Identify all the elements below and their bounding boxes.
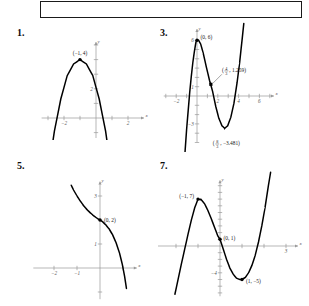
problem-5-svg: xy−2−113(0, 2) <box>22 155 154 303</box>
problem-7-point-marker <box>196 197 199 200</box>
problem-5-ytick: 3 <box>94 193 97 199</box>
svg-text:(: ( <box>213 140 215 147</box>
problem-5-ylabel: y <box>101 178 105 183</box>
problem-7-ytick: −4 <box>211 270 218 276</box>
problem-5-xlabel: x <box>137 263 141 268</box>
svg-text:(: ( <box>222 67 224 74</box>
problem-3-annotation-label: (83, −3.481) <box>213 139 240 149</box>
problem-3-axes <box>164 29 274 142</box>
problem-3-svg: xy−2246−316(0, 6)(43, 1.259)(83, −3.481) <box>156 22 308 152</box>
problem-7-point-marker <box>240 278 243 281</box>
problem-3-annotation-label: (43, 1.259) <box>222 66 246 76</box>
problem-3-point-marker <box>195 39 198 42</box>
problem-5-axes <box>33 182 137 300</box>
problem-3-xtick: 4 <box>237 98 240 104</box>
problem-5-annotation-label: (0, 2) <box>104 217 116 224</box>
problem-3-ytick: 1 <box>191 84 194 90</box>
problem-3-xtick: 6 <box>258 98 261 104</box>
problem-3-graph: xy−2246−316(0, 6)(43, 1.259)(83, −3.481) <box>156 22 308 152</box>
problem-3-curve <box>185 23 244 151</box>
problem-1-graph: xy−222(−1, 4) <box>22 22 154 140</box>
problem-7-xtick: 3 <box>285 248 288 254</box>
problem-3-xtick: −2 <box>173 98 180 104</box>
problem-1-xtick: 2 <box>127 120 130 126</box>
problem-7-ylabel: y <box>221 177 225 182</box>
svg-text:, −3.481): , −3.481) <box>220 140 240 147</box>
problem-1-xtick: −2 <box>61 120 68 126</box>
problem-1-xlabel: x <box>145 113 149 118</box>
problem-7-svg: xy3−4(−1, 7)(0, 1)(1, −5) <box>156 155 308 303</box>
problem-1-svg: xy−222(−1, 4) <box>22 22 154 140</box>
svg-text:3: 3 <box>216 144 218 149</box>
problem-3-xtick: 2 <box>217 98 220 104</box>
problem-1-ytick: 2 <box>90 86 93 92</box>
problem-7-graph: xy3−4(−1, 7)(0, 1)(1, −5) <box>156 155 308 303</box>
problem-5-ytick: 1 <box>94 241 97 247</box>
problem-3-annotation-label: (0, 6) <box>201 34 213 41</box>
problem-7-annotation-label: (0, 1) <box>224 235 236 242</box>
problem-7-annotation-label: (−1, 7) <box>179 193 194 200</box>
problem-5-point-marker <box>98 218 101 221</box>
problem-7: 7. xy3−4(−1, 7)(0, 1)(1, −5) <box>152 155 309 305</box>
problem-1-annotation-label: (−1, 4) <box>73 50 88 57</box>
problem-1-ylabel: y <box>97 39 101 44</box>
problem-3-ytick: −3 <box>188 121 195 127</box>
problem-5-xtick: −2 <box>51 270 58 276</box>
problem-3-point-marker <box>209 83 212 86</box>
problem-3: 3. xy−2246−316(0, 6)(43, 1.259)(83, −3.4… <box>152 22 309 152</box>
problem-3-xlabel: x <box>274 91 278 96</box>
top-answer-box <box>40 1 302 18</box>
problem-7-curve <box>175 172 271 294</box>
problem-7-xlabel: x <box>299 241 303 246</box>
problem-7-annotation-label: (1, −5) <box>246 278 261 285</box>
problem-1-point-marker <box>78 58 81 61</box>
worksheet-page: 1. xy−222(−1, 4) 3. xy−2246−316(0, 6)(43… <box>0 0 309 306</box>
problem-3-ylabel: y <box>198 26 202 31</box>
problem-5-graph: xy−2−113(0, 2) <box>22 155 154 303</box>
svg-text:3: 3 <box>225 71 227 76</box>
problem-7-point-marker <box>218 238 221 241</box>
problem-5: 5. xy−2−113(0, 2) <box>0 155 155 305</box>
problem-1: 1. xy−222(−1, 4) <box>0 22 155 142</box>
svg-text:, 1.259): , 1.259) <box>229 67 246 74</box>
problem-5-xtick: −1 <box>74 270 81 276</box>
problem-3-leader-line <box>213 74 222 83</box>
problem-3-ytick: 6 <box>191 37 194 43</box>
